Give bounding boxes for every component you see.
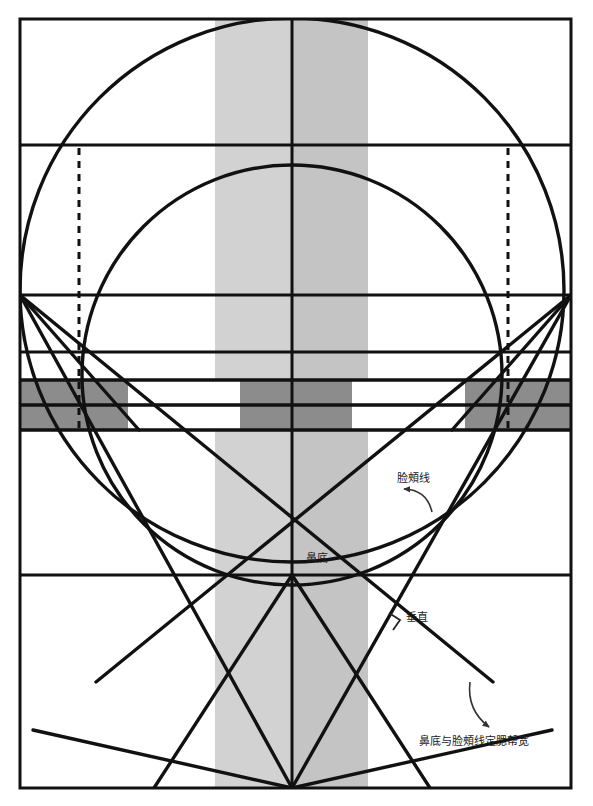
eye-band-upper-seg-3 [240,380,352,405]
label-nose-base: 鼻底 [306,551,328,565]
eye-band-lower-seg-3 [240,405,352,430]
eye-band-upper-seg-4 [352,380,465,405]
construction-drawing: 脸頰线鼻底垂直鼻底与脸頰线定腮帮宽 [0,0,593,806]
eye-band-upper-seg-5 [465,380,571,405]
eye-band-lower-seg-2 [128,405,240,430]
eye-band-upper-seg-2 [128,380,240,405]
diagram-canvas: 脸頰线鼻底垂直鼻底与脸頰线定腮帮宽 [0,0,593,806]
label-jaw-width-rule: 鼻底与脸頰线定腮帮宽 [419,734,529,748]
label-perpendicular: 垂直 [406,610,428,624]
label-cheek-line: 脸頰线 [397,471,430,485]
eye-band-lower-seg-1 [20,405,128,430]
eye-band-lower-seg-5 [465,405,571,430]
